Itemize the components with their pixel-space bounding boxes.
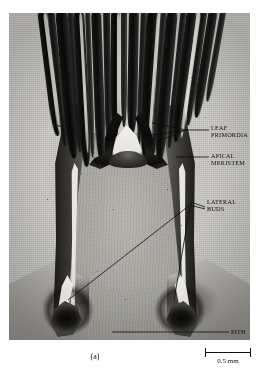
scale-bar-rule [203, 348, 253, 356]
figure-panel: LEAF PRIMORDIA APICAL MERISTEM LATERAL B… [0, 0, 259, 373]
micrograph-image [9, 13, 250, 340]
scale-bar-label: 0.5 mm [203, 357, 253, 365]
scale-bar: 0.5 mm [203, 348, 253, 365]
scale-bar-line [205, 352, 251, 353]
photo-vignette [9, 13, 250, 340]
scale-bar-cap-right [250, 348, 251, 357]
figure-caption: (a) [0, 352, 190, 361]
